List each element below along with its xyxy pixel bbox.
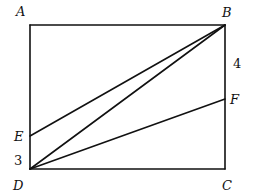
label-D: D <box>12 178 24 193</box>
label-F: F <box>229 92 240 107</box>
label-E: E <box>13 129 24 144</box>
geometry-diagram: A B C D E F 3 4 <box>0 0 253 196</box>
segment-DB <box>30 25 225 169</box>
segment-EB <box>30 25 225 136</box>
segment-DF <box>30 99 225 169</box>
length-BF-label: 4 <box>233 56 241 71</box>
label-A: A <box>15 4 25 19</box>
label-C: C <box>222 178 232 193</box>
label-B: B <box>221 5 232 20</box>
length-ED-label: 3 <box>14 153 22 168</box>
